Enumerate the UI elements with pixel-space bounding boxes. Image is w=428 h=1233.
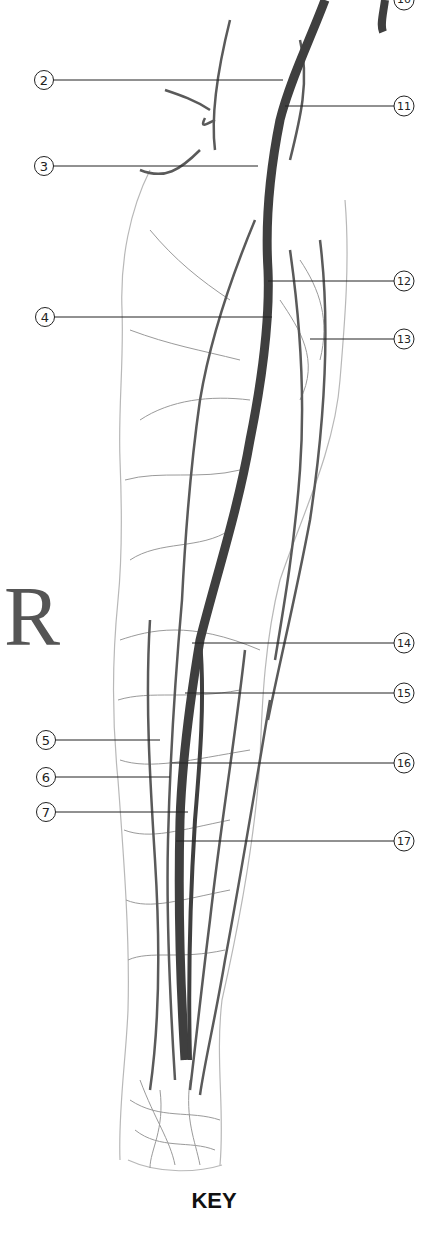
svg-text:4: 4 xyxy=(41,310,49,325)
svg-text:13: 13 xyxy=(397,333,411,346)
svg-text:5: 5 xyxy=(42,733,50,748)
svg-text:12: 12 xyxy=(397,275,411,288)
leg-vessel-diagram: 2 3 4 5 6 7 10 xyxy=(0,0,428,1233)
svg-text:10: 10 xyxy=(397,0,411,6)
callouts-right: 10 11 12 13 14 15 16 xyxy=(172,0,414,851)
svg-text:6: 6 xyxy=(42,770,50,785)
callout-11: 11 xyxy=(285,96,414,116)
svg-text:11: 11 xyxy=(397,100,411,113)
svg-text:16: 16 xyxy=(397,757,411,770)
callout-15: 15 xyxy=(185,683,414,703)
main-vessel xyxy=(179,0,385,1060)
callout-7: 7 xyxy=(37,803,189,822)
svg-text:15: 15 xyxy=(397,687,411,700)
svg-text:3: 3 xyxy=(40,159,48,174)
key-heading: KEY xyxy=(0,1188,428,1214)
callout-16: 16 xyxy=(172,753,414,773)
svg-text:14: 14 xyxy=(397,637,411,650)
svg-text:17: 17 xyxy=(397,835,411,848)
svg-text:2: 2 xyxy=(40,73,48,88)
callout-4: 4 xyxy=(36,308,273,327)
side-indicator-right: R xyxy=(4,575,60,659)
callout-2: 2 xyxy=(35,71,284,90)
callout-10: 10 xyxy=(394,0,414,10)
callout-14: 14 xyxy=(192,633,414,653)
secondary-vessels xyxy=(140,20,325,1095)
svg-text:7: 7 xyxy=(42,805,50,820)
callout-5: 5 xyxy=(37,731,161,750)
callout-12: 12 xyxy=(268,271,414,291)
callout-17: 17 xyxy=(176,831,414,851)
